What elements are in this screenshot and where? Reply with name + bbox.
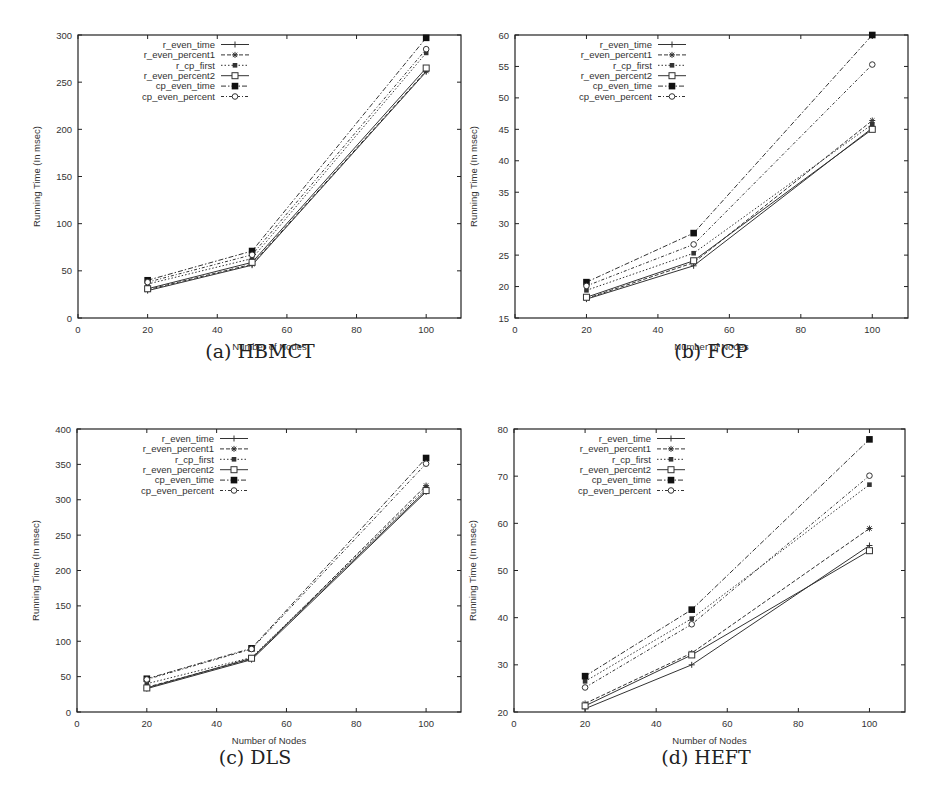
y-tick-label: 30 [497, 659, 508, 670]
series-cp_even_percent [582, 473, 872, 690]
legend-label: r_even_time [600, 39, 652, 50]
y-tick-label: 40 [497, 612, 508, 623]
small-square-marker-icon [669, 457, 674, 462]
open-square-marker-icon [689, 652, 695, 658]
open-circle-marker-icon [423, 46, 429, 52]
open-square-marker-icon [423, 65, 429, 71]
chart-caption-c: (c) DLS [155, 746, 355, 768]
small-square-marker-icon [583, 679, 588, 684]
series-line [147, 488, 426, 683]
legend-label: cp_even_percent [141, 485, 214, 496]
open-circle-marker-icon [668, 488, 674, 494]
open-square-marker-icon [249, 655, 255, 661]
legend: r_even_timer_even_percent1r_cp_firstr_ev… [578, 433, 685, 496]
open-square-marker-icon [669, 73, 675, 79]
filled-square-marker-icon [232, 83, 239, 90]
legend-label: r_even_percent1 [144, 49, 215, 60]
x-tick-label: 100 [418, 718, 434, 729]
chart-caption-a: (a) HBMCT [160, 340, 360, 362]
series-line [147, 464, 426, 680]
y-tick-label: 300 [56, 30, 72, 41]
y-tick-label: 100 [56, 218, 72, 229]
open-circle-marker-icon [249, 252, 255, 258]
series-r_cp_first [583, 482, 872, 683]
open-circle-marker-icon [232, 94, 238, 100]
legend-label: r_cp_first [612, 454, 651, 465]
series-line [586, 129, 872, 297]
filled-square-marker-icon [690, 230, 697, 237]
plot-frame [77, 429, 461, 712]
series-line [585, 529, 869, 704]
y-tick-label: 150 [55, 600, 71, 611]
filled-square-marker-icon [582, 673, 589, 680]
open-circle-marker-icon [867, 473, 873, 479]
series-r_even_time [145, 69, 430, 294]
star-marker-icon [232, 52, 238, 58]
open-circle-marker-icon [144, 677, 150, 683]
open-square-marker-icon [691, 258, 697, 264]
y-axis-label: Running Time (In msec) [30, 520, 41, 621]
y-tick-label: 250 [55, 530, 71, 541]
y-tick-label: 70 [497, 471, 508, 482]
legend-label: r_even_time [599, 433, 651, 444]
x-tick-label: 20 [580, 718, 591, 729]
x-tick-label: 80 [351, 718, 362, 729]
filled-square-marker-icon [869, 32, 876, 39]
y-tick-label: 350 [55, 459, 71, 470]
x-tick-label: 40 [651, 718, 662, 729]
open-circle-marker-icon [249, 646, 255, 652]
open-circle-marker-icon [423, 461, 429, 467]
chart-panel-c: 020406080100050100150200250300350400Numb… [0, 404, 466, 808]
small-square-marker-icon [232, 457, 237, 462]
legend-label: r_even_percent2 [581, 70, 652, 81]
series-line [585, 485, 869, 682]
x-tick-label: 60 [722, 718, 733, 729]
plot-frame [514, 429, 905, 712]
open-square-marker-icon [668, 467, 674, 473]
star-marker-icon [231, 446, 237, 452]
open-square-marker-icon [866, 548, 872, 554]
open-circle-marker-icon [145, 279, 151, 285]
y-axis-label: Running Time (In msec) [468, 126, 479, 227]
series-line [147, 492, 426, 689]
legend-label: r_even_time [163, 39, 215, 50]
legend-label: cp_even_time [156, 80, 215, 91]
y-tick-label: 60 [497, 518, 508, 529]
series-line [148, 72, 427, 291]
open-square-marker-icon [423, 488, 429, 494]
open-square-marker-icon [869, 126, 875, 132]
x-tick-label: 80 [796, 324, 807, 335]
open-circle-marker-icon [669, 94, 675, 100]
y-tick-label: 0 [66, 707, 71, 718]
legend-label: cp_even_percent [142, 91, 215, 102]
x-tick-label: 0 [74, 718, 79, 729]
chart-panel-a: 020406080100050100150200250300Number of … [0, 0, 466, 404]
open-circle-marker-icon [691, 242, 697, 248]
y-tick-label: 80 [497, 424, 508, 435]
star-marker-icon [866, 526, 872, 532]
legend-label: r_even_percent1 [580, 443, 651, 454]
x-tick-label: 20 [142, 718, 153, 729]
series-line [586, 124, 872, 290]
x-tick-label: 100 [862, 718, 878, 729]
x-tick-label: 20 [581, 324, 592, 335]
y-tick-label: 400 [55, 424, 71, 435]
series-r_even_percent1 [582, 526, 872, 707]
legend-label: cp_even_time [592, 474, 651, 485]
series-r_even_time [144, 489, 429, 692]
y-tick-label: 50 [60, 671, 71, 682]
legend-label: r_cp_first [613, 60, 652, 71]
small-square-marker-icon [233, 63, 238, 68]
x-tick-label: 0 [512, 324, 517, 335]
legend-label: r_cp_first [176, 60, 215, 71]
legend-label: r_even_percent2 [143, 464, 214, 475]
legend-label: r_even_time [162, 433, 214, 444]
x-axis-label: Number of Nodes [232, 735, 307, 746]
plus-marker-icon [232, 42, 238, 48]
y-tick-label: 60 [498, 30, 509, 41]
legend-label: cp_even_percent [578, 485, 651, 496]
filled-square-marker-icon [866, 436, 873, 443]
series-r_even_percent1 [583, 118, 875, 302]
series-line [586, 121, 872, 299]
y-tick-label: 25 [498, 250, 509, 261]
